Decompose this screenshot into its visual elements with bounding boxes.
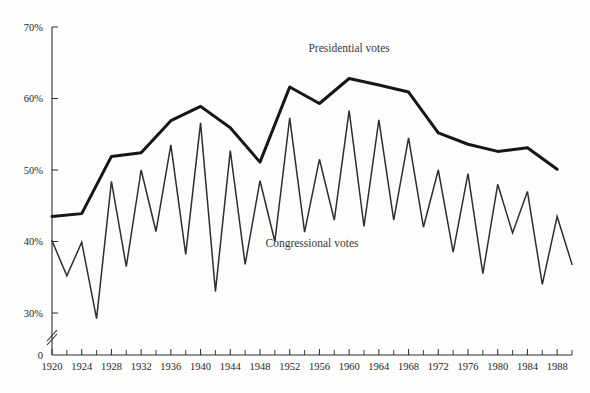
x-tick-label: 1944 [220, 361, 242, 372]
x-axis-tick-labels: 1920192419281932193619401944194819521956… [42, 361, 568, 372]
series-label-presidential: Presidential votes [308, 42, 390, 54]
x-tick-label: 1972 [428, 361, 449, 372]
x-tick-label: 1920 [42, 361, 63, 372]
x-tick-label: 1988 [547, 361, 568, 372]
axes-group [47, 27, 572, 355]
x-tick-label: 1976 [458, 361, 479, 372]
series-lines [52, 78, 572, 318]
x-tick-label: 1932 [131, 361, 152, 372]
x-axis-ticks [52, 349, 572, 355]
series-label-congressional: Congressional votes [266, 237, 359, 250]
y-axis-ticks [52, 27, 58, 313]
series-annotations: Presidential votesCongressional votes [266, 42, 391, 250]
series-line-congressional [52, 111, 572, 319]
x-tick-label: 1924 [71, 361, 93, 372]
vote-share-line-chart: 30%40%50%60%70%0 19201924192819321936194… [0, 0, 590, 393]
y-axis-zero-label: 0 [38, 350, 43, 361]
x-tick-label: 1960 [339, 361, 360, 372]
y-axis-tick-labels: 30%40%50%60%70%0 [24, 22, 44, 361]
x-tick-label: 1956 [309, 361, 330, 372]
x-tick-label: 1948 [250, 361, 271, 372]
y-tick-label: 60% [24, 93, 44, 104]
y-tick-label: 50% [24, 165, 44, 176]
x-tick-label: 1940 [190, 361, 211, 372]
y-tick-label: 40% [24, 236, 44, 247]
series-line-presidential [52, 78, 557, 216]
x-tick-label: 1984 [517, 361, 539, 372]
x-tick-label: 1928 [101, 361, 122, 372]
x-tick-label: 1980 [487, 361, 508, 372]
y-tick-label: 70% [24, 22, 44, 33]
x-tick-label: 1964 [368, 361, 390, 372]
x-tick-label: 1968 [398, 361, 419, 372]
chart-page: 30%40%50%60%70%0 19201924192819321936194… [0, 0, 590, 393]
x-tick-label: 1936 [160, 361, 181, 372]
x-tick-label: 1952 [279, 361, 300, 372]
y-tick-label: 30% [24, 308, 44, 319]
